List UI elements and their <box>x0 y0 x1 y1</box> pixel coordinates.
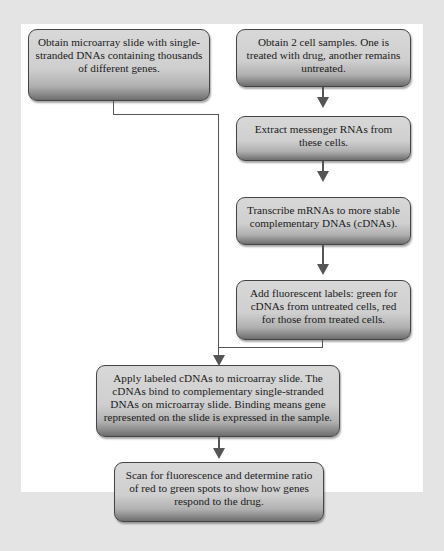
step-obtain-samples-box: Obtain 2 cell samples. One is treated wi… <box>236 29 411 87</box>
step-apply-cdnas-text: Apply labeled cDNAs to microarray slide.… <box>103 372 333 424</box>
step-obtain-samples-text: Obtain 2 cell samples. One is treated wi… <box>243 36 404 75</box>
arrow-down-icon <box>317 171 329 182</box>
connector-microarray-apply-v2 <box>218 114 219 358</box>
step-scan-fluorescence-text: Scan for fluorescence and determine rati… <box>121 469 317 508</box>
step-obtain-microarray-text: Obtain microarray slide with single-stra… <box>35 36 203 75</box>
step-scan-fluorescence-box: Scan for fluorescence and determine rati… <box>114 462 324 522</box>
step-transcribe-box: Transcribe mRNAs to more stable compleme… <box>236 197 411 245</box>
step-fluorescent-label-text: Add fluorescent labels: green for cDNAs … <box>243 287 404 326</box>
step-transcribe-text: Transcribe mRNAs to more stable compleme… <box>243 204 404 230</box>
arrow-down-icon <box>317 97 329 108</box>
step-obtain-microarray-box: Obtain microarray slide with single-stra… <box>28 29 210 101</box>
connector-transcribe-label <box>322 245 324 265</box>
step-extract-mrna-text: Extract messenger RNAs from these cells. <box>243 123 404 149</box>
arrow-down-icon <box>213 448 225 459</box>
connector-label-apply-h <box>218 347 323 348</box>
connector-microarray-apply-h <box>113 114 218 115</box>
step-extract-mrna-box: Extract messenger RNAs from these cells. <box>236 116 411 161</box>
connector-microarray-apply-v1 <box>113 101 114 115</box>
step-fluorescent-label-box: Add fluorescent labels: green for cDNAs … <box>236 280 411 340</box>
step-apply-cdnas-box: Apply labeled cDNAs to microarray slide.… <box>96 365 340 437</box>
arrow-down-icon <box>317 264 329 275</box>
